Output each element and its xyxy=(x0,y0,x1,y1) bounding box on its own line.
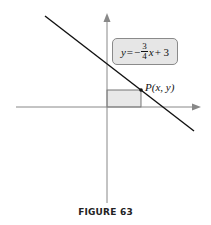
point-coords: (x, y) xyxy=(152,81,175,93)
y-axis-arrow-icon xyxy=(104,13,111,22)
equation-lhs: y xyxy=(121,46,126,58)
fraction-denominator: 4 xyxy=(142,52,147,61)
inscribed-rectangle xyxy=(107,90,141,107)
coordinate-plane xyxy=(0,0,211,225)
function-line xyxy=(45,16,194,131)
figure-caption: FIGURE 63 xyxy=(0,207,211,217)
equation-equals: = xyxy=(127,46,133,58)
point-label: P(x, y) xyxy=(145,81,174,93)
equation-fraction: 3 4 xyxy=(141,42,148,61)
point-p xyxy=(139,88,143,92)
point-name: P xyxy=(145,81,152,93)
equation-box: y = − 3 4 x + 3 xyxy=(112,38,178,65)
equation-rest: + 3 xyxy=(155,46,169,58)
equation-var: x xyxy=(149,46,154,58)
x-axis-arrow-icon xyxy=(192,104,201,111)
equation-sign: − xyxy=(134,46,140,58)
